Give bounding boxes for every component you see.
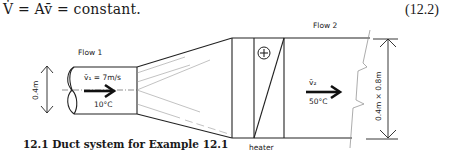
flow1-temperature: 10°C <box>94 100 113 109</box>
flow1-velocity: v̄₁ = 7m/s <box>84 73 121 82</box>
flow2-velocity: v̄₂ <box>309 78 316 87</box>
flow1-arrow <box>84 85 114 97</box>
dimension-inlet <box>41 66 53 113</box>
heater-label: heater <box>249 143 275 152</box>
flow2-dimension: 0.4m × 0.8m <box>374 71 383 121</box>
diffuser <box>137 38 232 138</box>
figure-caption: 12.1 Duct system for Example 12.1 <box>23 138 228 150</box>
outlet-duct <box>232 38 370 138</box>
plus-icon <box>258 47 270 59</box>
flow1-label: Flow 1 <box>78 48 103 57</box>
flow2-label: Flow 2 <box>313 21 338 30</box>
duct-diagram: Flow 1 v̄₁ = 7m/s 10°C 0.4m Flow 2 v̄₂ 5… <box>0 0 450 159</box>
break-line <box>350 30 370 148</box>
flow1-dimension: 0.4m <box>31 81 40 100</box>
flow-spread-lines <box>137 57 232 135</box>
flow2-temperature: 50°C <box>309 97 328 106</box>
